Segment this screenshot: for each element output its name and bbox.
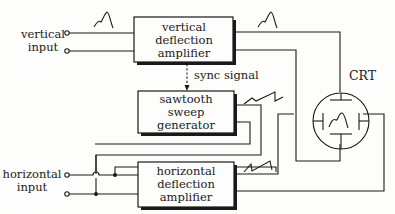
vertical-amp-label-3: amplifier <box>158 46 211 60</box>
sync-signal-label: sync signal <box>194 68 259 82</box>
horizontal-amp-label-1: horizontal <box>156 164 215 178</box>
sawtooth-label-1: sawtooth <box>159 92 213 106</box>
vertical-input-wires <box>65 31 135 53</box>
sync-arrow <box>185 64 190 91</box>
vertical-output-waveform-icon <box>258 12 277 28</box>
horizontal-input-label-2: input <box>17 180 48 194</box>
sawtooth-waveform-icon <box>244 92 283 104</box>
sawtooth-label-3: generator <box>157 118 215 132</box>
horizontal-output-wires <box>234 114 384 191</box>
crt-label: CRT <box>349 68 377 83</box>
crt <box>313 93 369 149</box>
vertical-input-label-1: vertical <box>20 27 65 41</box>
horizontal-amp-label-3: amplifier <box>160 190 213 204</box>
sawtooth-label-2: sweep <box>168 105 205 119</box>
horizontal-amp-label-2: deflection <box>157 177 215 191</box>
oscilloscope-block-diagram: vertical deflection amplifier sawtooth s… <box>0 0 395 214</box>
horizontal-input-label-1: horizontal <box>2 167 61 181</box>
crt-trace <box>329 113 348 128</box>
vertical-input-waveform-icon <box>94 12 113 28</box>
vertical-amp-label-2: deflection <box>155 33 213 47</box>
vertical-input-label-2: input <box>28 40 59 54</box>
vertical-amp-label-1: vertical <box>161 20 206 34</box>
